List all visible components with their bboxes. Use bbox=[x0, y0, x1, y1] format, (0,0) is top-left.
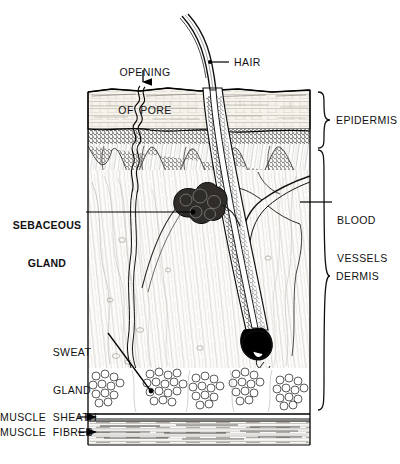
muscle-fibres bbox=[88, 421, 310, 445]
label-muscle-sheath: MUSCLE SHEATH bbox=[0, 411, 76, 424]
label-epidermis: EPIDERMIS bbox=[336, 114, 397, 127]
hair-shaft bbox=[180, 14, 216, 90]
label-opening-of-pore: OPENING OF PORE bbox=[106, 41, 184, 129]
label-sebaceous-gland-line2: GLAND bbox=[8, 257, 86, 270]
label-sebaceous-gland: SEBACEOUS GLAND bbox=[8, 194, 86, 282]
label-sweat-gland-line1: SWEAT bbox=[40, 346, 104, 359]
dermis-brace bbox=[318, 150, 330, 410]
label-sweat-gland-line2: GLAND bbox=[40, 384, 104, 397]
label-blood-vessels-line1: BLOOD bbox=[337, 214, 388, 227]
label-opening-of-pore-line2: OF PORE bbox=[106, 104, 184, 117]
label-sebaceous-gland-line1: SEBACEOUS bbox=[8, 219, 86, 232]
label-hair: HAIR bbox=[234, 56, 261, 69]
label-muscle-fibres: MUSCLE FIBRES bbox=[0, 426, 76, 439]
skin-cross-section-figure: OPENING OF PORE HAIR EPIDERMIS BLOOD VES… bbox=[0, 0, 400, 464]
epidermis-basal-layer bbox=[88, 129, 310, 144]
muscle-sheath bbox=[88, 414, 310, 419]
label-sweat-gland: SWEAT GLAND bbox=[40, 321, 104, 409]
skin-block bbox=[88, 86, 310, 445]
fat-lobules bbox=[88, 368, 310, 413]
label-dermis: DERMIS bbox=[336, 270, 379, 283]
label-opening-of-pore-line1: OPENING bbox=[106, 66, 184, 79]
label-blood-vessels-line2: VESSELS bbox=[337, 252, 388, 265]
label-blood-vessels: BLOOD VESSELS bbox=[337, 189, 388, 277]
epidermis-brace bbox=[318, 92, 330, 148]
